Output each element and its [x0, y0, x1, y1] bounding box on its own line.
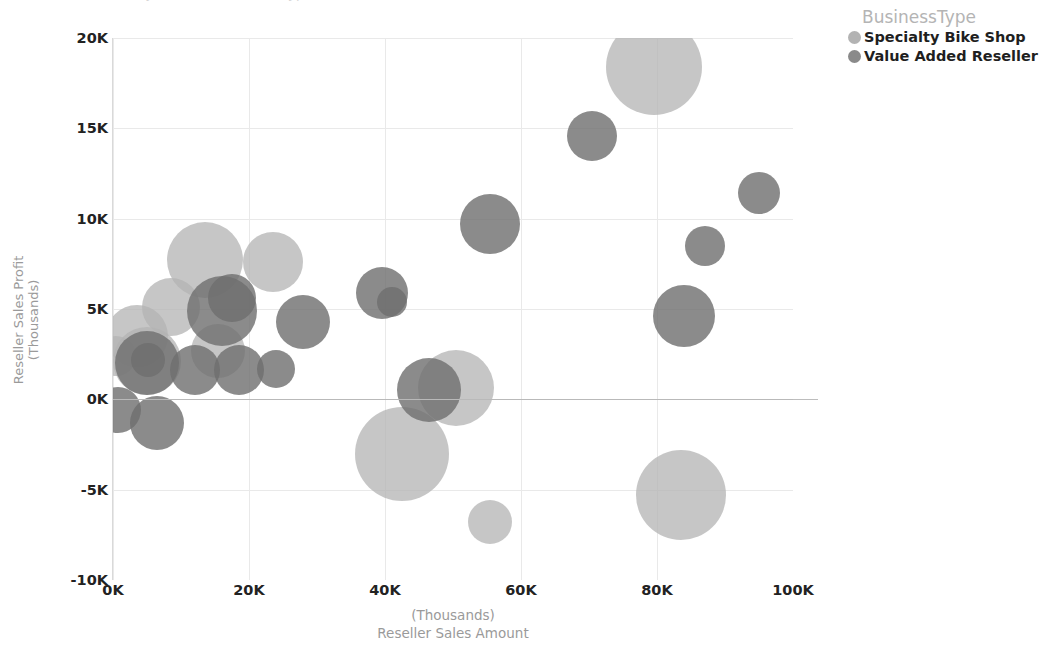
- bubble-value-added-reseller[interactable]: [130, 396, 184, 450]
- legend-item-label: Value Added Reseller: [864, 47, 1038, 66]
- legend-item-0[interactable]: Specialty Bike Shop: [848, 28, 1046, 47]
- zero-baseline: [113, 399, 793, 400]
- bubble-value-added-reseller[interactable]: [208, 274, 256, 322]
- y-axis-title-line1: Reseller Sales Profit: [11, 215, 26, 425]
- bubble-value-added-reseller[interactable]: [170, 345, 220, 395]
- gridline-horizontal: [113, 128, 793, 129]
- legend-item-1[interactable]: Value Added Reseller: [848, 47, 1046, 66]
- y-tick-label: 0K: [44, 392, 108, 407]
- y-axis-ticks: 20K15K10K5K0K-5K-10K: [36, 0, 108, 658]
- clipped-report-title: Reseller Sales Profit by Amount, Busines…: [0, 0, 860, 2]
- x-tick-label: 60K: [481, 583, 561, 598]
- y-tick-label: 20K: [44, 31, 108, 46]
- x-tick-label: 100K: [753, 583, 833, 598]
- bubble-value-added-reseller[interactable]: [567, 111, 617, 161]
- y-axis-title: Reseller Sales Profit (Thousands): [8, 206, 44, 416]
- y-tick-label: 5K: [44, 302, 108, 317]
- legend-swatch-icon: [848, 50, 861, 63]
- bubble-value-added-reseller[interactable]: [738, 172, 780, 214]
- bubble-specialty-bike-shop[interactable]: [243, 232, 303, 292]
- x-tick-label: 80K: [617, 583, 697, 598]
- bubble-value-added-reseller[interactable]: [276, 295, 330, 349]
- x-axis-title-line2: Reseller Sales Amount: [113, 624, 793, 642]
- gridline-horizontal: [113, 219, 793, 220]
- legend-swatch-icon: [848, 31, 861, 44]
- x-tick-label: 0K: [73, 583, 153, 598]
- x-tick-label: 20K: [209, 583, 289, 598]
- x-tick-label: 40K: [345, 583, 425, 598]
- bubble-value-added-reseller[interactable]: [257, 350, 295, 388]
- y-axis-title-line2: (Thousands): [26, 215, 41, 425]
- bubble-specialty-bike-shop[interactable]: [468, 500, 512, 544]
- bubble-value-added-reseller[interactable]: [685, 226, 725, 266]
- legend-title: BusinessType: [848, 6, 1046, 28]
- plot-area: [113, 38, 793, 580]
- y-tick-label: 10K: [44, 212, 108, 227]
- legend-item-label: Specialty Bike Shop: [864, 28, 1026, 47]
- bubble-value-added-reseller[interactable]: [131, 343, 165, 377]
- x-axis-title: (Thousands) Reseller Sales Amount: [113, 606, 793, 642]
- y-tick-label: -5K: [44, 483, 108, 498]
- zero-baseline-extension: [793, 399, 818, 400]
- bubble-chart-page: Reseller Sales Profit by Amount, Busines…: [0, 0, 1046, 658]
- bubble-value-added-reseller[interactable]: [460, 194, 520, 254]
- bubble-specialty-bike-shop[interactable]: [606, 38, 702, 115]
- bubble-value-added-reseller[interactable]: [653, 285, 715, 347]
- bubble-value-added-reseller[interactable]: [377, 287, 407, 317]
- legend: BusinessType Specialty Bike ShopValue Ad…: [848, 6, 1046, 66]
- legend-items: Specialty Bike ShopValue Added Reseller: [848, 28, 1046, 66]
- y-tick-label: 15K: [44, 121, 108, 136]
- bubble-specialty-bike-shop[interactable]: [636, 450, 726, 540]
- x-axis-title-line1: (Thousands): [113, 606, 793, 624]
